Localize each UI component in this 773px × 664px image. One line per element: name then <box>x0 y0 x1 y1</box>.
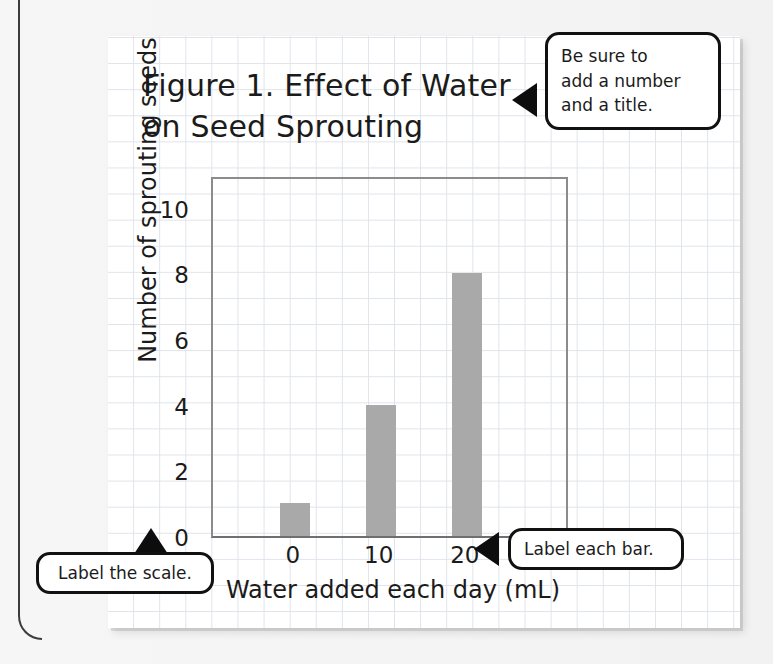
y-axis-tick-labels: 0246810 <box>149 177 189 538</box>
callout-label-each-bar: Label each bar. <box>508 528 684 570</box>
y-axis-tick-label: 2 <box>155 459 189 485</box>
bar <box>366 405 396 536</box>
bar <box>280 503 310 536</box>
y-axis-tick-label: 4 <box>155 394 189 420</box>
callout-pointer-bar-icon <box>474 532 499 566</box>
bar-series <box>213 179 566 536</box>
callout-pointer-title-icon <box>512 83 537 117</box>
x-axis-title: Water added each day (mL) <box>168 576 618 604</box>
callout-label-the-scale: Label the scale. <box>36 552 214 594</box>
y-axis-tick-label: 10 <box>155 197 189 223</box>
chart-title: Figure 1. Effect of Water on Seed Sprout… <box>143 66 563 147</box>
y-axis-tick-label: 6 <box>155 328 189 354</box>
callout-pointer-scale-icon <box>134 528 168 554</box>
callout-add-number-and-title: Be sure to add a number and a title. <box>545 32 721 130</box>
x-axis-tick-label: 10 <box>349 542 409 568</box>
plot-area <box>211 177 568 538</box>
x-axis-tick-label: 0 <box>263 542 323 568</box>
bar <box>452 273 482 536</box>
y-axis-tick-label: 8 <box>155 262 189 288</box>
